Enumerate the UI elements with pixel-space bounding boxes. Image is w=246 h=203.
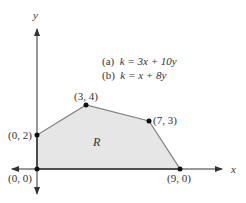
vertex-label: (0, 2) bbox=[8, 129, 32, 141]
equation-b: (b) k = x + 8y bbox=[102, 69, 166, 81]
vertex-point bbox=[147, 119, 152, 124]
x-axis-label: x bbox=[231, 163, 236, 175]
vertex-label: (0, 0) bbox=[8, 172, 32, 184]
y-axis-label: y bbox=[33, 9, 38, 21]
vertex-point bbox=[35, 133, 40, 138]
vertex-point bbox=[84, 103, 89, 108]
equation-a: (a) k = 3x + 10y bbox=[102, 55, 177, 67]
vertex-point bbox=[178, 167, 183, 172]
vertex-point bbox=[35, 167, 40, 172]
vertex-label: (7, 3) bbox=[153, 114, 177, 126]
vertex-label: (3, 4) bbox=[74, 90, 98, 102]
region-label: R bbox=[93, 136, 100, 148]
vertex-label: (9, 0) bbox=[167, 172, 191, 184]
diagram-canvas bbox=[0, 0, 246, 203]
